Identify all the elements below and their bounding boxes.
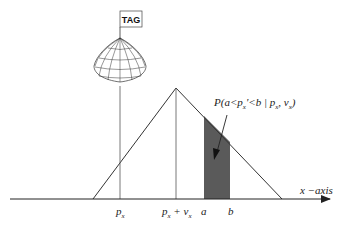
x-axis-label: x −axis (299, 184, 333, 196)
probability-label: P(a<px'<b | px, vx) (213, 96, 296, 111)
tick-label-px-plus-vx: px + vx (161, 205, 192, 220)
tick-label-a: a (201, 205, 207, 217)
tag-box: TAG (120, 11, 142, 27)
tick-label-px: px (115, 205, 126, 220)
tick-label-b: b (228, 205, 234, 217)
parachute-icon (94, 27, 146, 82)
tag-label: TAG (122, 15, 140, 25)
probability-shaded-region (204, 116, 230, 199)
diagram-canvas: TAG P(a<px'<b | px, vx) x −axis px px + … (0, 0, 350, 228)
